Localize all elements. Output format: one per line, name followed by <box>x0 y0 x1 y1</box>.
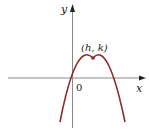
origin-label: 0 <box>76 82 82 93</box>
parabola-diagram: y x 0 (h, k) <box>0 0 149 130</box>
x-axis-label: x <box>136 82 143 95</box>
parabola-curve-right <box>93 55 125 122</box>
vertex-point <box>91 56 95 60</box>
y-axis <box>70 4 75 128</box>
y-axis-arrow-icon <box>70 4 75 12</box>
x-axis-arrow-icon <box>139 76 146 81</box>
vertex-label: (h, k) <box>81 42 108 53</box>
y-axis-label: y <box>60 3 68 16</box>
x-axis <box>8 76 146 81</box>
